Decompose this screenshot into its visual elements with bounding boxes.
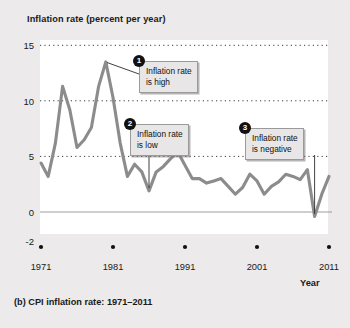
annotation-3-line2: is negative — [252, 144, 298, 155]
annotation-callout-2: Inflation rate is low — [130, 124, 189, 156]
ytick-label-0: 0 — [8, 207, 34, 218]
annotation-callout-3: Inflation rate is negative — [245, 128, 304, 160]
xtick-label-1991: 1991 — [161, 262, 209, 272]
xtick-label-1971: 1971 — [17, 262, 65, 272]
annotation-badge-2: 2 — [124, 118, 136, 130]
annotation-2-line1: Inflation rate — [137, 129, 183, 140]
xtick-dot-2011 — [327, 245, 331, 249]
xtick-label-1981: 1981 — [89, 262, 137, 272]
figure-panel: Inflation rate (percent per year) 15 10 … — [0, 0, 350, 328]
annotation-2-line2: is low — [137, 140, 183, 151]
xtick-dot-1981 — [111, 245, 115, 249]
ytick-label-minus2: -2 — [8, 236, 34, 247]
x-axis-name: Year — [300, 278, 320, 288]
annotation-badge-3: 3 — [239, 122, 251, 134]
ytick-label-15: 15 — [8, 40, 34, 51]
annotation-callout-1: Inflation rate is high — [139, 61, 198, 93]
figure-caption: (b) CPI inflation rate: 1971–2011 — [14, 297, 152, 307]
annotation-3-line1: Inflation rate — [252, 133, 298, 144]
annotation-1-line2: is high — [146, 77, 192, 88]
xtick-dot-2001 — [255, 245, 259, 249]
ytick-label-5: 5 — [8, 151, 34, 162]
xtick-label-2011: 2011 — [305, 262, 350, 272]
xtick-dot-1971 — [39, 245, 43, 249]
annotation-1-line1: Inflation rate — [146, 66, 192, 77]
ytick-label-10: 10 — [8, 95, 34, 106]
chart-graphics — [0, 0, 350, 328]
xtick-dot-1991 — [183, 245, 187, 249]
xtick-label-2001: 2001 — [233, 262, 281, 272]
y-axis-labels: 15 10 5 0 -2 — [4, 0, 34, 328]
annotation-badge-1: 1 — [133, 55, 145, 67]
